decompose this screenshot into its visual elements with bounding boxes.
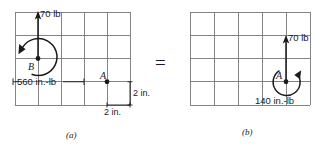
panel-b-annotations [180,0,323,148]
point-label-b: B [28,62,34,72]
dimension-vertical-a [128,82,133,105]
panel-a-annotations [0,0,150,148]
dimension-label-horizontal-a: 2 in. [104,108,121,117]
figure-root: 70 lb B 560 in.-lb A 2 in. 2 in. (a) = [0,0,323,148]
point-label-a-panel-b: A [276,71,282,81]
panel-a: 70 lb B 560 in.-lb A 2 in. 2 in. (a) [0,0,150,148]
point-b-dot [36,56,41,61]
dimension-label-vertical-a: 2 in. [133,89,150,98]
equals-sign: = [155,53,166,72]
moment-label-a: 560 in.-lb [17,77,56,87]
moment-label-b: 140 in.-lb [255,96,294,106]
point-a-dot-panel-b [284,79,289,84]
caption-b: (b) [242,128,253,137]
force-label-a: 70 lb [40,9,61,19]
force-label-b: 70 lb [288,33,309,43]
caption-a: (a) [66,131,77,140]
point-label-a-panel-a: A [100,71,106,81]
moment-arrowhead-b [294,70,301,79]
panel-b: 70 lb A 140 in.-lb (b) [180,0,323,148]
